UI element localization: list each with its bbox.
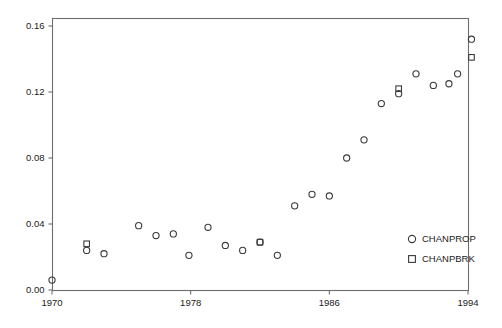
data-point-chanpbrk (469, 55, 475, 61)
x-axis-ticks: 1970197819861994 (41, 291, 478, 308)
y-tick-label: 0.12 (26, 86, 45, 97)
x-tick-label: 1994 (457, 297, 478, 308)
y-tick-label: 0.16 (26, 20, 45, 31)
data-point-chanprop (430, 82, 436, 88)
data-point-chanprop (292, 203, 298, 209)
data-point-chanprop (222, 242, 228, 248)
data-point-chanprop (309, 191, 315, 197)
data-point-chanpbrk (84, 241, 90, 247)
x-tick-label: 1970 (41, 297, 62, 308)
y-tick-label: 0.08 (26, 152, 45, 163)
data-point-chanprop (378, 100, 384, 106)
data-point-chanprop (413, 71, 419, 77)
legend-marker-circle (408, 235, 415, 242)
legend-label: CHANPROP (422, 233, 476, 244)
plot-frame (53, 19, 469, 291)
legend: CHANPROPCHANPBRK (408, 233, 475, 264)
data-point-chanprop (101, 251, 107, 257)
legend-marker-square (409, 256, 416, 263)
scatter-plot-figure: 0.000.040.080.120.16 1970197819861994 CH… (0, 0, 502, 328)
data-point-chanprop (257, 239, 263, 245)
data-point-chanprop (136, 223, 142, 229)
x-tick-label: 1978 (180, 297, 201, 308)
data-point-chanprop (170, 231, 176, 237)
data-point-chanprop (84, 247, 90, 253)
y-tick-label: 0.04 (26, 218, 45, 229)
x-tick-label: 1986 (319, 297, 340, 308)
data-point-chanprop (446, 81, 452, 87)
data-point-chanprop (361, 137, 367, 143)
data-point-chanprop (326, 193, 332, 199)
data-point-chanprop (153, 232, 159, 238)
data-point-chanprop (205, 224, 211, 230)
data-point-chanprop (468, 36, 474, 42)
legend-label: CHANPBRK (422, 253, 475, 264)
y-axis-ticks: 0.000.040.080.120.16 (26, 20, 53, 295)
data-point-chanprop (344, 155, 350, 161)
data-point-chanprop (455, 71, 461, 77)
data-point-chanprop (274, 252, 280, 258)
plot-border (53, 19, 469, 291)
data-point-chanprop (186, 252, 192, 258)
y-tick-label: 0.00 (26, 284, 45, 295)
plot-canvas: 0.000.040.080.120.16 1970197819861994 CH… (0, 0, 502, 328)
data-point-chanprop (240, 247, 246, 253)
data-points-layer (49, 36, 475, 283)
